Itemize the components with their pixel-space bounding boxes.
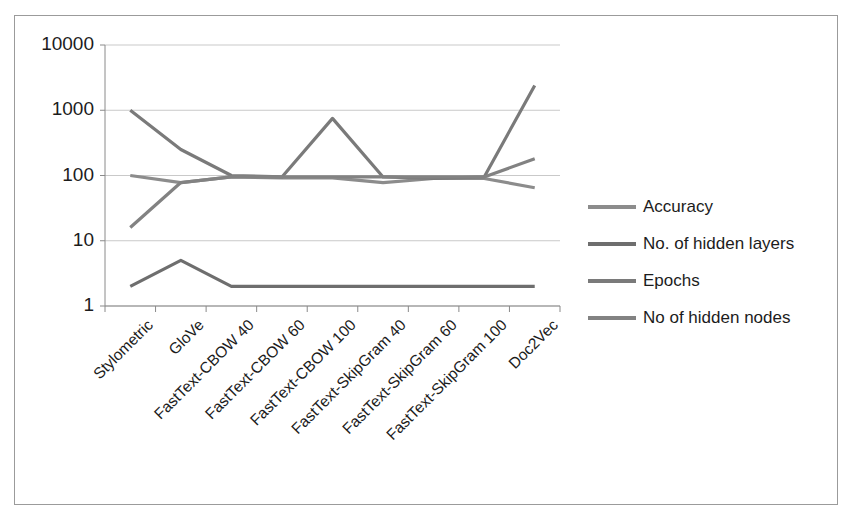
y-axis-tick-label: 10: [73, 229, 94, 251]
legend-color-swatch: [588, 279, 636, 283]
y-axis-tick-label: 10000: [41, 33, 94, 55]
series-line: [130, 85, 534, 178]
legend-color-swatch: [588, 205, 636, 209]
legend-item[interactable]: Epochs: [588, 270, 700, 292]
legend-label: Accuracy: [643, 197, 713, 217]
series-line: [130, 159, 534, 228]
legend-item[interactable]: No. of hidden layers: [588, 233, 794, 255]
legend-color-swatch: [588, 316, 636, 320]
legend-label: Epochs: [643, 271, 700, 291]
legend-label: No. of hidden layers: [643, 234, 794, 254]
legend-item[interactable]: No of hidden nodes: [588, 307, 790, 329]
y-axis-tick-label: 100: [62, 164, 94, 186]
series-line: [130, 260, 534, 286]
y-axis-tick-label: 1: [83, 294, 94, 316]
y-axis-tick-label: 1000: [52, 98, 94, 120]
legend-item[interactable]: Accuracy: [588, 196, 713, 218]
legend-label: No of hidden nodes: [643, 308, 790, 328]
legend-color-swatch: [588, 242, 636, 246]
